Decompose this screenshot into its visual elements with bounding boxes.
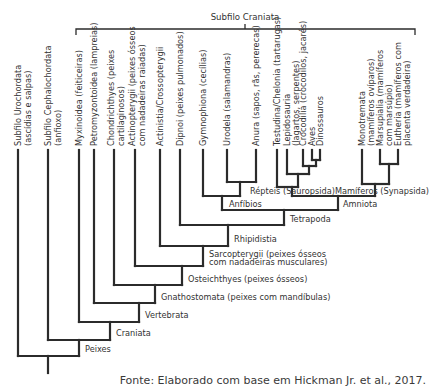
node-label-craniata: Craniata bbox=[116, 328, 151, 338]
node-label-vertebrata: Vertebrata bbox=[145, 310, 188, 320]
node-label-mamiferos: Mamíferos (Synapsida) bbox=[335, 186, 429, 196]
leaf-label-actinistia: Actinistia/Crossopterygii bbox=[155, 47, 165, 146]
node-label-amniota: Amniota bbox=[343, 199, 377, 209]
leaf-label-testudina: Testudina/Chelonia (tartarugas) bbox=[272, 17, 282, 147]
leaf-label-myxinoidea: Myxinoidea (feiticeiras) bbox=[74, 50, 84, 146]
leaf-label-dinossauros: Dinossauros bbox=[315, 96, 325, 146]
node-label-sarcopterygii: Sarcopterygii (peixes ósseoscom nadadeir… bbox=[209, 249, 327, 267]
node-label-anfibios: Anfíbios bbox=[229, 199, 262, 209]
leaf-label-urodela: Urodela (salamandras) bbox=[222, 53, 232, 146]
source-caption: Fonte: Elaborado com base em Hickman Jr.… bbox=[120, 374, 426, 387]
phylogenetic-tree: Subfilo Craniata bbox=[0, 0, 434, 391]
leaf-label-anura: Anura (sapos, rãs, pererecas) bbox=[251, 25, 261, 146]
node-label-osteichthyes: Osteichthyes (peixes ósseos) bbox=[188, 274, 307, 284]
leaf-label-urochordata: Subfilo Urochordata(ascídias e salpas) bbox=[13, 65, 33, 146]
leaf-label-petromyzontoidea: Petromyzontoidea (lampreias) bbox=[89, 23, 99, 146]
craniata-bracket-label: Subfilo Craniata bbox=[211, 12, 280, 22]
node-label-rhipidistia: Rhipidistia bbox=[234, 234, 277, 244]
node-labels: Répteis (Sauropsida) Mamíferos (Synapsid… bbox=[85, 186, 429, 354]
leaf-label-cephalochordata: Subfilo Cephalochordata(anfioxo) bbox=[43, 46, 63, 146]
leaf-label-actinopterygii: Actinopterygii (peixes ósseoscom nadadei… bbox=[127, 26, 147, 146]
leaf-label-eutheria: Eutheria (mamíferos complacenta verdadei… bbox=[393, 42, 412, 146]
leaf-labels: Subfilo Urochordata(ascídias e salpas) S… bbox=[13, 17, 412, 147]
leaf-label-monotremata: Monotremata(mamíferos ovíparos) bbox=[357, 59, 376, 146]
node-label-gnathostomata: Gnathostomata (peixes com mandíbulas) bbox=[161, 292, 330, 302]
leaf-label-marsupialia: Marsupialia (mamíferoscom marsúpio) bbox=[375, 50, 394, 146]
leaf-label-gymnophiona: Gymnophiona (cecílias) bbox=[198, 50, 208, 146]
leaf-branches bbox=[18, 150, 398, 356]
leaf-label-chondrichthyes: Chondrichthyes (peixescartilaginosos) bbox=[106, 50, 126, 146]
node-label-tetrapoda: Tetrapoda bbox=[289, 214, 331, 224]
node-label-repteis: Répteis (Sauropsida) bbox=[250, 186, 335, 196]
leaf-label-dipnoi: Dipnoi (peixes pulmonados) bbox=[175, 31, 185, 146]
node-label-peixes: Peixes bbox=[85, 344, 111, 354]
